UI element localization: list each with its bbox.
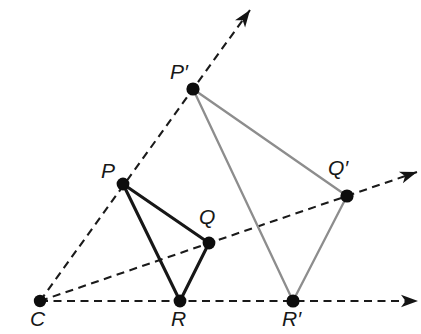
vertex-label-r-prime: R′: [282, 308, 301, 329]
vertex-label-q-prime: Q′: [328, 157, 348, 178]
vertex-label-c: C: [30, 308, 45, 329]
triangle-preimage-pqr: [123, 184, 209, 301]
vertex-label-r: R: [171, 308, 186, 329]
vertex-dot-q-prime: [340, 189, 353, 202]
ray-group: [40, 10, 418, 301]
ray-c-q-qprime: [40, 172, 417, 301]
dilation-figure: C P Q R P′ Q′ R′: [0, 0, 421, 334]
vertex-dot-r: [174, 295, 187, 308]
vertex-label-q: Q: [199, 206, 215, 227]
vertex-dot-p-prime: [186, 82, 199, 95]
figure-canvas: [0, 0, 421, 334]
vertex-label-p-prime: P′: [170, 61, 188, 82]
triangle-image-pqr-prime: [193, 89, 347, 301]
vertex-label-p: P: [101, 160, 115, 181]
vertex-dot-r-prime: [286, 294, 299, 307]
ray-c-p-pprime: [40, 10, 250, 301]
arrowhead-p-ray: [235, 10, 250, 27]
vertex-dot-q: [203, 237, 216, 250]
vertex-dot-p: [117, 178, 130, 191]
arrowhead-group: [235, 10, 418, 307]
vertex-dot-c: [34, 295, 46, 307]
arrowhead-r-ray: [401, 295, 418, 307]
